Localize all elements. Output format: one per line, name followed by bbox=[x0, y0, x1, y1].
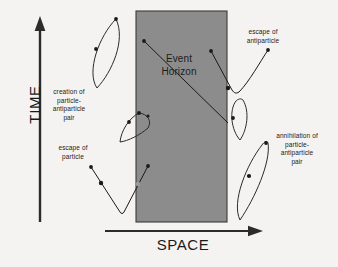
annotation-creation: creation of particle- antiparticle pair bbox=[38, 88, 100, 122]
annotation-annihilation: annihilation of particle- antiparticle p… bbox=[262, 132, 332, 166]
annotation-escape-particle: escape of particle bbox=[44, 144, 102, 161]
loop-outside-upper-left bbox=[93, 17, 119, 88]
event-horizon-label: Event Horizon bbox=[146, 52, 212, 78]
space-axis-label: SPACE bbox=[128, 236, 238, 253]
space-axis-arrow bbox=[105, 226, 263, 236]
loop-outside-right bbox=[231, 99, 247, 140]
hawking-radiation-diagram: TIME SPACE Event Horizon creation of par… bbox=[0, 0, 338, 267]
event-horizon-region bbox=[136, 11, 227, 222]
annotation-escape-antiparticle: escape of antiparticle bbox=[232, 28, 294, 45]
